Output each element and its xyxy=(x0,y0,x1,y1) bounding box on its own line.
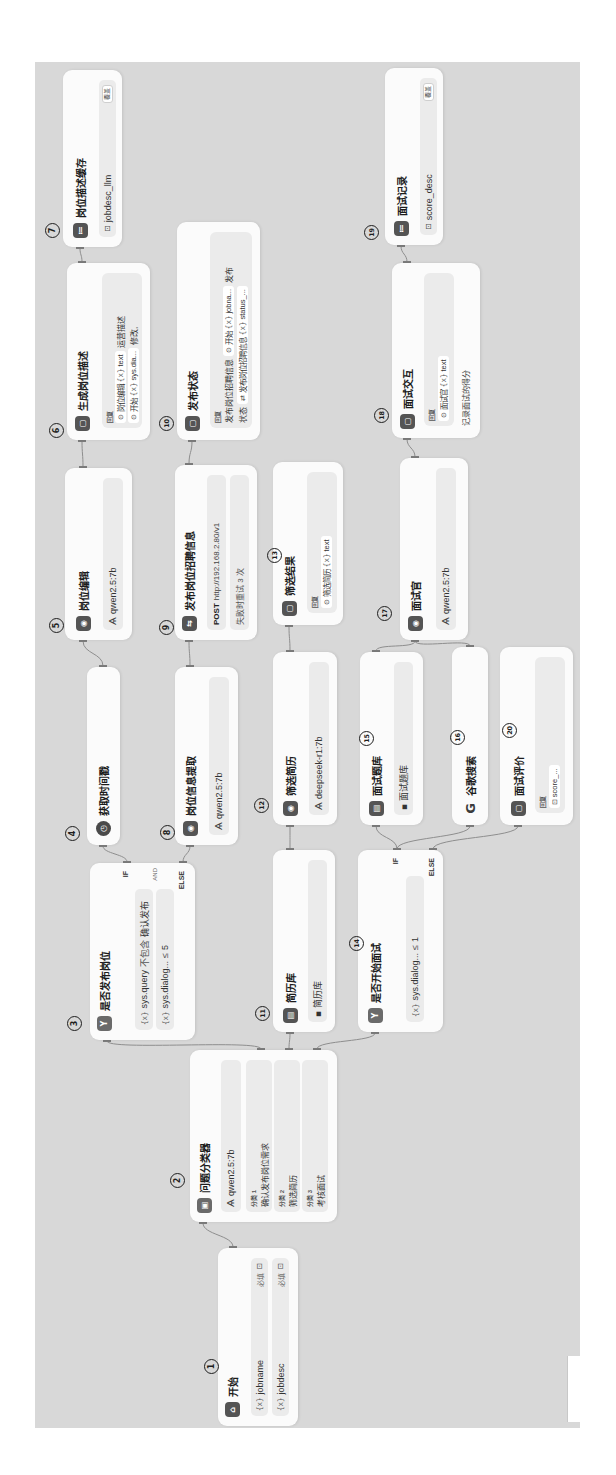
edge-14-16 xyxy=(397,826,470,849)
logic-operator[interactable]: AND xyxy=(152,868,158,881)
condition-row[interactable]: {x} sys.query 不包含 确认发布 xyxy=(135,889,153,1030)
node-ref-icon: ⊙ xyxy=(225,347,233,353)
class-row[interactable]: 分类 1 确认发布岗位需求 xyxy=(246,1060,272,1212)
node-answer-screening-result[interactable]: ▢ 筛选结果 回复 ⊙ 筛选简历 {x} text xyxy=(273,462,343,625)
node-llm-interviewer[interactable]: ◉ 面试官 Ѧ qwen2.5:7b xyxy=(400,458,468,640)
model-row[interactable]: Ѧ qwen2.5:7b xyxy=(436,468,456,630)
node-http-publish-job[interactable]: ⇆ 发布岗位招聘信息 POST http://192.168.2.80/v1 失… xyxy=(175,465,257,640)
node-assigner-interview-record[interactable]: ≔ 面试记录 ⊡ score_desc 覆盖 xyxy=(385,68,443,245)
knowledge-dataset-row[interactable]: ▪ 简历库 xyxy=(308,860,327,1022)
node-get-timestamp[interactable]: ◷ 获取时间戳 xyxy=(87,667,120,845)
node-start[interactable]: ⌂ 开始 {x} jobname 必填 ⊡ {x} jobdesc 必填 ⊡ xyxy=(218,1248,298,1426)
variable-reference-chip[interactable]: ⊙ 岗位编辑 {x} text xyxy=(115,351,126,423)
answer-line: ⊙ 开始 {x} sys.dia... 修改, xyxy=(128,277,139,423)
step-number-badge: 9 xyxy=(159,620,174,635)
ref-variable-name: sys.dia... xyxy=(129,351,138,381)
condition-operator: ≤ xyxy=(160,953,170,958)
node-title: 面试官 xyxy=(408,581,423,611)
node-knowledge-resume-library[interactable]: ▤ 简历库 ▪ 简历库 xyxy=(273,850,335,1032)
assigned-variable-row[interactable]: ⊡ score_desc 覆盖 xyxy=(420,78,437,235)
llm-icon: ◉ xyxy=(183,821,198,836)
variable-reference-chip[interactable]: ⊙ 筛选简历 {x} text xyxy=(321,536,332,608)
node-answer-publish-status[interactable]: ▢ 发布状态 回复 发布岗位招聘信息 ⊙ 开始 {x} jobna... 发布 … xyxy=(177,222,260,440)
assigned-variable-row[interactable]: ⊡ jobdesc_llm 覆盖 xyxy=(99,80,116,237)
text-type-icon: ⊡ xyxy=(276,1263,285,1270)
node-llm-resume-screening[interactable]: ◉ 筛选简历 Ѧ deepseek-r1:7b xyxy=(273,652,337,825)
class-row[interactable]: 分类 3 考核面试 xyxy=(302,1060,328,1212)
variable-reference-chip[interactable]: ⊙ 面试官 {x} text xyxy=(438,356,449,421)
assigned-variable-name: score_desc xyxy=(424,174,434,220)
node-header: ◉ 岗位信息提取 xyxy=(182,756,198,836)
answer-content[interactable]: 回复 ⊙ 筛选简历 {x} text xyxy=(307,472,337,613)
step-number-badge: 10 xyxy=(159,416,174,431)
node-answer-job-desc[interactable]: ▢ 生成岗位描述 回复 ⊙ 岗位编辑 {x} text 运营描述 ⊙ 开始 {x… xyxy=(67,263,150,440)
answer-content[interactable]: 回复 ⊡ score_... xyxy=(535,657,565,813)
node-if-else-publish[interactable]: Y 是否发布岗位 IF {x} sys.query 不包含 确认发布 AND {… xyxy=(90,863,195,1040)
minimap-panel[interactable] xyxy=(567,1356,580,1422)
answer-icon: ▢ xyxy=(282,601,297,616)
node-ref-icon: ⊙ xyxy=(440,412,448,418)
input-variable-row[interactable]: {x} jobname 必填 ⊡ xyxy=(251,1258,268,1416)
node-header: ◉ 筛选简历 xyxy=(282,756,298,816)
edge-8-9 xyxy=(189,641,190,666)
variable-reference-chip[interactable]: ⊙ 开始 {x} jobna... xyxy=(223,286,234,356)
edge-1-2 xyxy=(203,1223,233,1247)
model-row[interactable]: Ѧ qwen2.5:7b xyxy=(209,677,229,835)
answer-content[interactable]: 回复 ⊙ 面试官 {x} text xyxy=(424,273,454,426)
condition-row[interactable]: {x} sys.dialog... ≤ 1 xyxy=(406,876,424,1022)
node-header: G 谷歌搜索 xyxy=(462,756,478,816)
node-header: ▢ 发布状态 xyxy=(184,371,200,431)
variable-icon: {x} xyxy=(116,369,125,383)
condition-variable: sys.query xyxy=(139,970,149,1009)
node-assigner-job-desc-cache[interactable]: ≔ 岗位描述缓存 ⊡ jobdesc_llm 覆盖 xyxy=(63,70,122,247)
node-title: 筛选简历 xyxy=(283,756,298,796)
answer-content[interactable]: 回复 发布岗位招聘信息 ⊙ 开始 {x} jobna... 发布 状态 ⇄ 发布… xyxy=(210,232,252,428)
variable-assigner-icon: ≔ xyxy=(73,223,88,238)
http-request-row[interactable]: POST http://192.168.2.80/v1 xyxy=(207,475,226,630)
model-row[interactable]: Ѧ deepseek-r1:7b xyxy=(309,662,329,815)
node-title: 面试记录 xyxy=(394,176,409,216)
node-question-classifier[interactable]: ▣ 问题分类器 Ѧ qwen2.5:7b 分类 1 确认发布岗位需求 分类 2 … xyxy=(190,1050,337,1222)
input-variable-row[interactable]: {x} jobdesc 必填 ⊡ xyxy=(272,1258,289,1416)
edge-16-17 xyxy=(415,641,470,646)
model-provider-icon: Ѧ xyxy=(226,1199,236,1207)
model-row[interactable]: Ѧ qwen2.5:7b xyxy=(221,1060,241,1212)
ref-node-name: 开始 xyxy=(128,398,139,412)
model-name: qwen2.5:7b xyxy=(226,1150,236,1197)
class-text: 考核面试 xyxy=(315,1175,326,1207)
node-title: 获取时间戳 xyxy=(96,766,111,816)
step-number-badge: 7 xyxy=(45,223,60,238)
node-header: ▤ 面试题库 xyxy=(368,756,384,816)
answer-content[interactable]: 回复 ⊙ 岗位编辑 {x} text 运营描述 ⊙ 开始 {x} sys.dia… xyxy=(102,273,142,428)
retry-row[interactable]: 失败时重试 3 次 xyxy=(230,475,249,630)
model-provider-icon: Ѧ xyxy=(441,617,451,625)
node-if-else-start-interview[interactable]: Y 是否开始面试 IF {x} sys.dialog... ≤ 1 ELSE xyxy=(358,850,443,1032)
class-row[interactable]: 分类 2 筛选简历 xyxy=(274,1060,300,1212)
node-answer-interview-interaction[interactable]: ▢ 面试交互 回复 ⊙ 面试官 {x} text 记录面试的得分 xyxy=(392,263,480,438)
step-number-badge: 5 xyxy=(49,618,64,633)
variable-reference-chip[interactable]: ⊡ score_... xyxy=(549,765,560,808)
node-llm-job-edit[interactable]: ◉ 岗位编辑 Ѧ qwen2.5:7b xyxy=(65,468,132,640)
model-row[interactable]: Ѧ qwen2.5:7b xyxy=(103,478,123,630)
llm-icon: ◉ xyxy=(283,801,298,816)
node-header: ▣ 问题分类器 xyxy=(196,1143,212,1213)
step-number-badge: 11 xyxy=(255,1006,270,1021)
knowledge-icon: ▤ xyxy=(369,801,384,816)
reply-label: 回复 xyxy=(427,409,436,421)
ref-variable-name: status_... xyxy=(238,289,247,319)
text-type-icon: ⊡ xyxy=(255,1263,264,1270)
answer-text: 状态 xyxy=(237,407,248,423)
node-title: 开始 xyxy=(225,1377,240,1397)
knowledge-dataset-row[interactable]: ▪ 面试题库 xyxy=(394,662,413,815)
node-llm-job-info-extract[interactable]: ◉ 岗位信息提取 Ѧ qwen2.5:7b xyxy=(175,667,238,845)
condition-row[interactable]: {x} sys.dialog... ≤ 5 xyxy=(156,889,174,1030)
if-label: IF xyxy=(392,858,399,864)
variable-reference-chip[interactable]: ⊙ 开始 {x} sys.dia... xyxy=(128,348,139,423)
workflow-canvas-rotated[interactable]: ⌂ 开始 {x} jobname 必填 ⊡ {x} jobdesc 必填 ⊡ ▣… xyxy=(35,62,580,1428)
model-name: deepseek-r1:7b xyxy=(314,737,324,800)
workflow-canvas[interactable]: ⌂ 开始 {x} jobname 必填 ⊡ {x} jobdesc 必填 ⊡ ▣… xyxy=(35,62,580,1428)
answer-text: 修改, xyxy=(128,327,139,345)
variable-icon: {x} xyxy=(322,554,331,568)
step-number-badge: 1 xyxy=(204,1359,219,1374)
variable-reference-chip[interactable]: ⇄ 发布岗位招聘信息 {x} status_... xyxy=(237,286,248,404)
